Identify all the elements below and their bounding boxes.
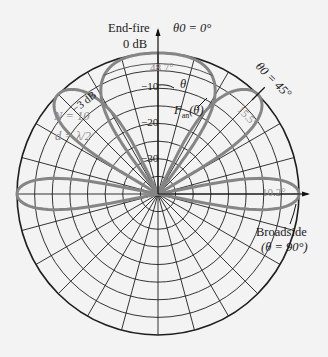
zero-db-label: 0 dB (123, 38, 147, 51)
fan-arg: (θ) (189, 103, 203, 117)
polar-plot (0, 0, 328, 357)
theta0-0-label: θ0 = 0° (173, 22, 211, 35)
theta0-0-text: θ0 = 0° (173, 21, 211, 35)
grid-spoke (88, 194, 159, 316)
minus10-tick-label: −10 (141, 81, 158, 92)
endfire-arrowhead-icon (156, 28, 161, 36)
grid-spoke (158, 194, 229, 316)
minus20-tick-label: −20 (141, 117, 158, 128)
theta-text: θ (180, 77, 186, 91)
grid-spoke (122, 194, 158, 330)
d-value-text: d = λ/2 (55, 129, 91, 143)
broadside-theta-text: (θ = 90°) (261, 240, 308, 254)
bw-broadside-label: 10.2° (262, 187, 286, 198)
fan-f: F (174, 103, 182, 117)
grid-spoke (158, 72, 229, 194)
n-value-text: N = 10 (54, 109, 90, 123)
broadside-theta-label: (θ = 90°) (261, 241, 308, 254)
n-value-label: N = 10 (54, 110, 90, 123)
broadside-pointer-icon (290, 204, 296, 224)
bw-endfire-label: 48.7° (150, 62, 174, 73)
minus30-tick-label: −30 (141, 153, 158, 164)
endfire-label: End-fire (108, 22, 150, 35)
scan45-axis (252, 87, 265, 100)
broadside-label: Broadside (256, 226, 307, 239)
broadside-arrowhead-icon (302, 192, 310, 197)
d-value-label: d = λ/2 (55, 130, 91, 143)
fan-label: Fan(θ) (174, 104, 204, 120)
theta-arrow-icon (158, 85, 174, 88)
grid-spoke (158, 194, 194, 330)
theta-label: θ (180, 78, 186, 91)
